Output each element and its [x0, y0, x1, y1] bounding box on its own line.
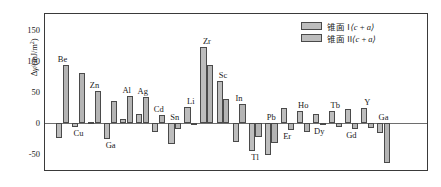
bar-pb-series-1	[265, 123, 271, 155]
bar-sc-series-1	[217, 81, 223, 123]
category-label-ho-15: Ho	[298, 100, 308, 110]
legend-label-series-2-bracket: ⟨c + a⟩	[352, 34, 376, 44]
bar-ho-series-1	[297, 111, 303, 123]
bar-cd-series-1	[152, 123, 158, 132]
bar-be-series-1	[56, 123, 62, 138]
bar-zr-series-2	[207, 65, 213, 123]
category-label-sn-7: Sn	[170, 112, 179, 122]
legend-swatch-series-1	[301, 22, 322, 30]
bar-ga-series-1	[377, 123, 383, 133]
bar-sn-series-1	[168, 123, 174, 144]
category-label-zr-9: Zr	[203, 36, 211, 46]
category-label-cu-1: Cu	[74, 128, 84, 138]
bar-cu-series-2	[79, 73, 85, 123]
y-axis-label-delta: Δ	[29, 71, 39, 76]
bar-cd-series-2	[159, 115, 165, 123]
category-label-tl-12: Tl	[251, 152, 259, 162]
bar-dy-series-1	[313, 114, 319, 123]
bar-al-series-2	[127, 96, 133, 123]
legend-label-series-1-prefix: 锥面 I	[327, 22, 350, 32]
legend-swatch-series-2	[301, 34, 322, 42]
category-label-be-0: Be	[58, 54, 67, 64]
chart-figure: Δγ/(mJ/m2) 150100500-50 BeCuZnGaAlAgCdSn…	[0, 0, 441, 187]
bar-in-series-2	[239, 104, 245, 123]
y-tick-label: 50	[32, 87, 41, 97]
bar-sc-series-2	[223, 99, 229, 123]
bar-li-series-2	[191, 123, 197, 125]
category-label-dy-16: Dy	[314, 126, 324, 136]
bar-tb-series-1	[329, 111, 335, 123]
category-label-gd-18: Gd	[346, 130, 356, 140]
category-label-y-19: Y	[364, 97, 370, 107]
y-tick-label: 150	[27, 25, 40, 35]
bar-ga-series-2	[384, 123, 390, 163]
bar-y-series-2	[368, 123, 374, 128]
bar-ag-series-2	[143, 97, 149, 123]
legend-label-series-1: 锥面 I ⟨c + a⟩	[327, 20, 374, 32]
bar-gd-series-2	[352, 123, 358, 129]
category-label-ga-3: Ga	[106, 140, 116, 150]
category-label-er-14: Er	[283, 131, 291, 141]
legend-label-series-1-bracket: ⟨c + a⟩	[350, 22, 374, 32]
category-label-al-4: Al	[122, 85, 131, 95]
category-label-sc-10: Sc	[219, 70, 228, 80]
legend-label-series-2: 锥面 II⟨c + a⟩	[327, 32, 376, 44]
bar-be-series-2	[63, 65, 69, 123]
bar-ag-series-1	[136, 114, 142, 123]
legend-item-cone-1[interactable]: 锥面 I ⟨c + a⟩	[301, 20, 418, 31]
legend-label-series-2-prefix: 锥面 II	[327, 34, 352, 44]
bar-er-series-1	[281, 108, 287, 123]
bar-al-series-1	[120, 119, 126, 123]
bar-y-series-1	[361, 108, 367, 123]
category-label-in-11: In	[236, 93, 243, 103]
bar-tl-series-2	[255, 123, 261, 137]
y-axis-label-gamma: γ	[29, 68, 39, 71]
bar-zn-series-2	[95, 91, 101, 123]
category-label-li-8: Li	[187, 96, 195, 106]
bar-in-series-1	[233, 123, 239, 142]
bar-zn-series-1	[88, 122, 94, 124]
bar-zr-series-1	[200, 47, 206, 123]
bar-pb-series-2	[271, 123, 277, 143]
y-tick-label: 0	[36, 118, 40, 128]
bar-ga-series-2	[111, 101, 117, 123]
category-label-ag-5: Ag	[138, 86, 148, 96]
legend-item-cone-2[interactable]: 锥面 II⟨c + a⟩	[301, 32, 418, 43]
y-axis-label-exponent: 2	[29, 41, 35, 44]
y-tick-label: 100	[27, 56, 40, 66]
bar-tl-series-1	[249, 123, 255, 151]
bar-sn-series-2	[175, 123, 181, 129]
bar-li-series-1	[184, 107, 190, 123]
bar-er-series-2	[288, 123, 294, 130]
bar-gd-series-1	[345, 109, 351, 123]
bar-cu-series-1	[72, 123, 78, 127]
category-label-cd-6: Cd	[154, 104, 164, 114]
bar-dy-series-2	[320, 123, 326, 125]
category-label-zn-2: Zn	[90, 80, 99, 90]
category-label-tb-17: Tb	[331, 100, 340, 110]
y-tick-label: -50	[29, 149, 40, 159]
bar-ho-series-2	[304, 123, 310, 132]
bar-ga-series-1	[104, 123, 110, 139]
legend: 锥面 I ⟨c + a⟩ 锥面 II⟨c + a⟩	[296, 17, 422, 47]
category-label-pb-13: Pb	[267, 112, 276, 122]
category-label-ga-20: Ga	[379, 112, 389, 122]
bar-tb-series-2	[336, 123, 342, 127]
